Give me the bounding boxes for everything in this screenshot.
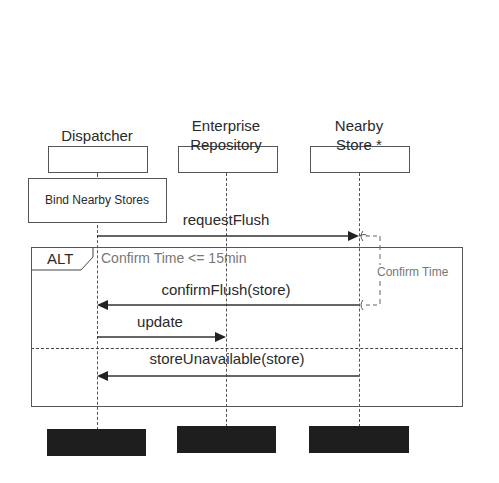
message-label-confirmflush: confirmFlush(store) [161,281,290,298]
message-label-requestflush: requestFlush [183,211,270,228]
alt-operator-label: ALT [47,250,73,267]
diagram-graphics [0,0,499,483]
redacted-box-store [309,426,409,453]
timing-constraint-label: Confirm Time [377,265,448,279]
redacted-box-repository [177,426,276,453]
message-label-update: update [137,313,183,330]
redacted-box-dispatcher [47,429,146,456]
message-label-storeunavailable: storeUnavailable(store) [149,350,304,367]
alt-guard-label: Confirm Time <= 15min [101,250,247,266]
